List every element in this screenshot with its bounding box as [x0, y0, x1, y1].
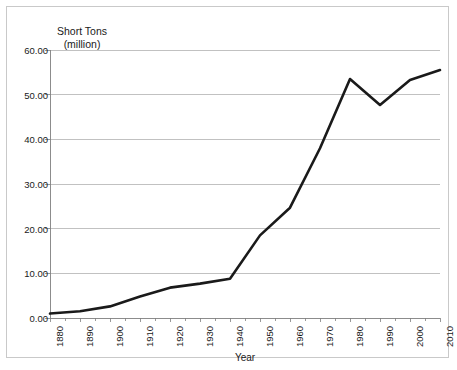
- x-tick-label: 1950: [264, 326, 275, 347]
- x-tick-label: 1990: [384, 326, 395, 347]
- x-tick-label: 1910: [144, 326, 155, 347]
- x-tick-label: 1880: [54, 326, 65, 347]
- chart-screenshot: Short Tons (million): [0, 0, 457, 370]
- x-tick-label: 1920: [174, 326, 185, 347]
- x-tick-label: 2010: [444, 326, 455, 347]
- x-tick-label: 1960: [294, 326, 305, 347]
- x-tick-label: 1980: [354, 326, 365, 347]
- x-tick-label: 2000: [414, 326, 425, 347]
- x-axis-title: Year: [50, 352, 440, 363]
- x-tick-label: 1970: [324, 326, 335, 347]
- x-axis-tick-labels: 1880189019001910192019301940195019601970…: [0, 0, 457, 370]
- x-tick-label: 1890: [84, 326, 95, 347]
- x-tick-label: 1940: [234, 326, 245, 347]
- x-tick-label: 1930: [204, 326, 215, 347]
- chart-stage: Short Tons (million): [0, 0, 457, 370]
- x-tick-label: 1900: [114, 326, 125, 347]
